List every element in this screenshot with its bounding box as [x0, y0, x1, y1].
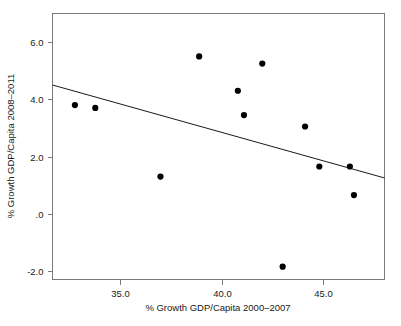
- y-tick-label: .0: [36, 209, 44, 220]
- x-tick-label: 45.0: [314, 288, 333, 299]
- y-axis-ticks: [48, 43, 53, 272]
- y-tick-label: 2.0: [30, 152, 43, 163]
- plot-frame: [53, 14, 385, 280]
- x-tick-label: 40.0: [213, 288, 232, 299]
- x-axis-tick-labels: 35.040.045.0: [111, 288, 333, 299]
- y-tick-label: 4.0: [30, 94, 43, 105]
- scatter-point: [92, 105, 98, 111]
- x-tick-label: 35.0: [111, 288, 130, 299]
- y-axis-title: % Growth GDP/Capita 2008–2011: [5, 74, 16, 219]
- clipped-header-text: [214, 0, 394, 1]
- plot-canvas: 35.040.045.0 6.04.02.0.0-2.0 % Growth GD…: [0, 0, 401, 326]
- scatter-point: [241, 112, 247, 118]
- x-axis-ticks: [121, 280, 324, 285]
- y-tick-label: -2.0: [27, 266, 43, 277]
- scatter-point: [235, 88, 241, 94]
- scatter-point: [157, 173, 163, 179]
- scatter-points: [72, 53, 357, 269]
- scatter-point: [302, 123, 308, 129]
- y-tick-label: 6.0: [30, 37, 43, 48]
- scatter-point: [351, 192, 357, 198]
- scatter-point: [259, 60, 265, 66]
- scatter-plot-figure: 35.040.045.0 6.04.02.0.0-2.0 % Growth GD…: [0, 0, 401, 326]
- scatter-point: [72, 102, 78, 108]
- y-axis-tick-labels: 6.04.02.0.0-2.0: [27, 37, 43, 277]
- scatter-point: [196, 53, 202, 59]
- scatter-point: [347, 163, 353, 169]
- scatter-point: [316, 163, 322, 169]
- regression-line: [53, 85, 385, 178]
- x-axis-title: % Growth GDP/Capita 2000–2007: [145, 302, 290, 313]
- scatter-point: [280, 264, 286, 270]
